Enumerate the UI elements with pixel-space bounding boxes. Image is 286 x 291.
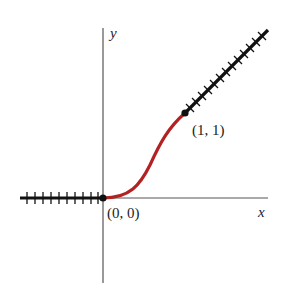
connecting-curve: [103, 113, 185, 198]
point-1-1: [181, 109, 188, 116]
origin-label: (0, 0): [107, 205, 140, 222]
y-axis-label: y: [108, 25, 117, 41]
right-ray: [185, 30, 268, 113]
left-ray: [20, 192, 103, 204]
x-axis-label: x: [257, 204, 265, 220]
diagram-canvas: y x (0, 0) (1, 1): [0, 0, 286, 291]
origin-point: [99, 194, 106, 201]
point-1-1-label: (1, 1): [192, 122, 225, 139]
